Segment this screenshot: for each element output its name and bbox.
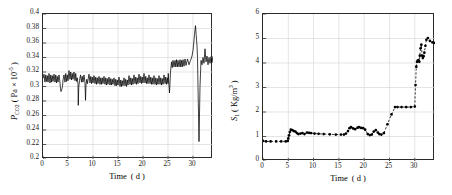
x-tick-label: 5 <box>285 163 289 170</box>
y-tick-label: 5 <box>231 34 259 41</box>
y-tick-label: 6 <box>231 9 259 16</box>
y-tick-label: 0.4 <box>11 9 39 16</box>
plot-area-pco2 <box>42 13 212 158</box>
x-axis-label-s1: Time ( d ) <box>262 174 434 183</box>
y-axis-label-s1: S1 ( Kg/m3 ) <box>228 80 240 121</box>
x-tick-label: 30 <box>410 163 417 170</box>
y-tick-label: 0.36 <box>11 38 39 45</box>
x-tick-label: 10 <box>88 161 95 168</box>
y-tick-label: 0 <box>231 156 259 163</box>
x-tick-label: 5 <box>65 161 69 168</box>
plot-area-s1 <box>262 13 434 160</box>
y-axis-label-pco2: PCO2 ( Pa × 10-5 ) <box>8 62 20 120</box>
panel-s1: 0123456 051015202530 Time ( d ) S1 ( Kg/… <box>226 0 452 195</box>
x-tick-label: 30 <box>188 161 195 168</box>
panel-pco2: 0.20.220.240.260.280.30.320.340.360.380.… <box>0 0 226 195</box>
x-tick-label: 15 <box>334 163 341 170</box>
x-tick-label: 20 <box>360 163 367 170</box>
x-tick-label: 15 <box>113 161 120 168</box>
y-tick-label: 0.22 <box>11 140 39 147</box>
x-tick-label: 25 <box>163 161 170 168</box>
x-axis-label-pco2: Time ( d ) <box>42 172 212 181</box>
y-tick-label: 4 <box>231 58 259 65</box>
y-tick-label: 0.24 <box>11 125 39 132</box>
plot-canvas-s1 <box>263 14 435 161</box>
y-tick-label: 0.2 <box>11 154 39 161</box>
x-tick-label: 10 <box>309 163 316 170</box>
x-tick-label: 25 <box>385 163 392 170</box>
y-tick-label: 0.34 <box>11 53 39 60</box>
x-tick-label: 20 <box>138 161 145 168</box>
y-tick-label: 0.38 <box>11 24 39 31</box>
plot-canvas-pco2 <box>43 14 213 159</box>
figure-two-panel-timeseries: 0.20.220.240.260.280.30.320.340.360.380.… <box>0 0 452 195</box>
x-tick-label: 0 <box>40 161 44 168</box>
y-tick-label: 1 <box>231 132 259 139</box>
x-tick-label: 0 <box>260 163 264 170</box>
